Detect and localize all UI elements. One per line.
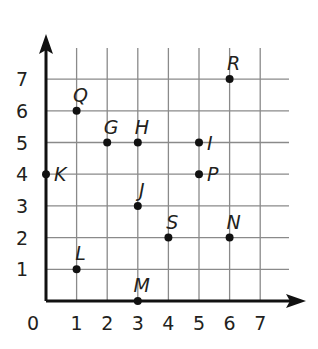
point-dot-icon [103,139,111,147]
point-dot-icon [73,107,81,115]
point-label: Q [73,84,88,106]
point-dot-icon [73,265,81,273]
x-tick-label: 3 [132,312,144,334]
point-dot-icon [195,139,203,147]
x-tick-label: 2 [101,312,113,334]
point-label: M [134,274,150,296]
y-tick-label: 6 [16,100,28,122]
point-label: N [226,211,240,233]
point-dot-icon [226,234,234,242]
point-label: R [227,52,240,74]
point-label: S [166,211,178,233]
x-tick-label: 1 [71,312,83,334]
point-label: I [207,132,213,154]
y-tick-label: 5 [16,132,28,154]
point-label: P [207,163,219,185]
y-tick-label: 4 [16,163,28,185]
y-tick-label: 1 [16,258,28,280]
x-tick-label: 5 [193,312,205,334]
point-dot-icon [195,170,203,178]
x-tick-label: 6 [224,312,236,334]
point-label: K [54,163,68,185]
point-label: H [135,116,149,138]
point-label: J [135,179,145,201]
x-tick-label: 4 [162,312,174,334]
point-label: G [104,116,119,138]
origin-label: 0 [27,312,39,334]
x-axis-tick-labels: 1234567 [71,312,267,334]
y-axis-tick-labels: 1234567 [16,68,28,280]
coordinate-grid-figure: 1234567 1234567 0 QGHIRKPJSNLM [0,0,318,349]
point-dot-icon [164,234,172,242]
y-tick-label: 3 [16,195,28,217]
y-tick-label: 7 [16,68,28,90]
y-tick-label: 2 [16,227,28,249]
x-tick-label: 7 [254,312,266,334]
point-dot-icon [42,170,50,178]
point-dot-icon [226,75,234,83]
plotted-points: QGHIRKPJSNLM [42,52,241,305]
point-dot-icon [134,297,142,305]
coordinate-plane: 1234567 1234567 0 QGHIRKPJSNLM [0,0,318,349]
point-dot-icon [134,202,142,210]
point-label: L [75,242,86,264]
point-dot-icon [134,139,142,147]
